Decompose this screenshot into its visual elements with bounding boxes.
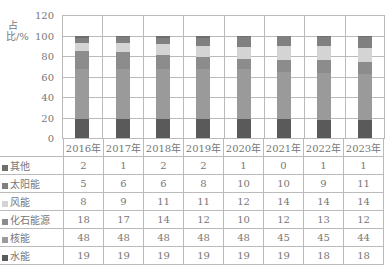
gridline-vertical [62,15,63,138]
bar-segment [196,57,210,69]
bar-segment [317,120,331,138]
table-cell: 19 [64,247,104,265]
bar-segment [317,60,331,73]
bar-segment [358,37,372,48]
bar-segment [116,43,130,52]
bar-segment [237,119,251,138]
table-cell: 1 [344,157,384,175]
table-cell: 13 [304,211,344,229]
table-cell: 18 [304,247,344,265]
stacked-bar [277,36,291,138]
table-cell: 14 [344,193,384,211]
bar-segment [237,59,251,69]
y-tick-label: 100 [35,30,54,41]
table-row: 其他21221011 [0,157,384,175]
gridline-vertical [183,15,184,138]
table-cell: 11 [344,175,384,193]
year-header: 2016年 [64,139,104,157]
gridline-vertical [264,15,265,138]
bar-segment [277,46,291,60]
y-tick-label: 120 [35,10,54,21]
year-header: 2022年 [304,139,344,157]
bar-segment [317,46,331,60]
bar-segment [75,69,89,118]
bar-segment [237,37,251,47]
table-cell: 19 [264,247,304,265]
stacked-bar [358,36,372,138]
table-cell: 9 [304,175,344,193]
table-cell: 12 [184,211,224,229]
year-header: 2021年 [264,139,304,157]
table-cell: 8 [184,175,224,193]
table-cell: 11 [144,193,184,211]
bar-segment [277,72,291,118]
legend-marker-icon [2,201,8,207]
gridline-vertical [384,15,385,138]
legend-label: 其他 [0,157,64,175]
legend-label: 太阳能 [0,175,64,193]
table-cell: 2 [64,157,104,175]
table-cell: 1 [224,157,264,175]
legend-marker-icon [2,183,8,189]
legend-label: 核能 [0,229,64,247]
table-cell: 14 [144,211,184,229]
table-cell: 48 [144,229,184,247]
table-cell: 14 [304,193,344,211]
table-row: 化石能源1817141210121312 [0,211,384,229]
table-cell: 45 [304,229,344,247]
table-cell: 18 [344,247,384,265]
bar-segment [277,60,291,72]
table-cell: 1 [104,157,144,175]
table-cell: 8 [64,193,104,211]
table-row: 水能1919191919191818 [0,247,384,265]
y-tick-label: 20 [41,112,54,123]
y-tick-label: 60 [41,71,54,82]
gridline-vertical [102,15,103,138]
bar-segment [358,74,372,119]
bar-segment [116,69,130,118]
bar-segment [277,36,291,46]
stacked-bar [75,36,89,138]
bar-segment [277,119,291,138]
table-header-row: 2016年2017年2018年2019年2020年2021年2022年2023年 [0,139,384,157]
table-cell: 19 [184,247,224,265]
table-cell: 1 [304,157,344,175]
bar-segment [156,55,170,69]
bar-segment [237,69,251,118]
table-row: 风能89111112141414 [0,193,384,211]
bar-segment [75,43,89,51]
gridline-vertical [345,15,346,138]
bar-segment [116,52,130,69]
bar-segment [156,44,170,55]
stacked-bar [317,36,331,138]
table-cell: 2 [184,157,224,175]
table-cell: 14 [264,193,304,211]
y-axis-label: 占比/% [6,20,20,42]
table-row: 太阳能56681010911 [0,175,384,193]
bar-segment [358,62,372,74]
bar-segment [358,120,372,138]
legend-marker-icon [2,237,8,243]
bar-segment [156,69,170,118]
table-cell: 19 [104,247,144,265]
table-row: 核能4848484848454544 [0,229,384,247]
bar-segment [196,69,210,118]
year-header: 2023年 [344,139,384,157]
data-table: 2016年2017年2018年2019年2020年2021年2022年2023年… [0,138,384,265]
legend-label: 风能 [0,193,64,211]
table-cell: 12 [224,193,264,211]
bar-segment [317,73,331,119]
bar-segment [75,119,89,138]
table-corner [0,139,64,157]
year-header: 2019年 [184,139,224,157]
table-cell: 6 [104,175,144,193]
table-cell: 10 [264,175,304,193]
bar-segment [196,38,210,46]
table-cell: 17 [104,211,144,229]
table-cell: 45 [264,229,304,247]
table-cell: 48 [104,229,144,247]
table-cell: 18 [64,211,104,229]
bar-segment [116,119,130,138]
gridline-vertical [224,15,225,138]
table-cell: 10 [224,175,264,193]
